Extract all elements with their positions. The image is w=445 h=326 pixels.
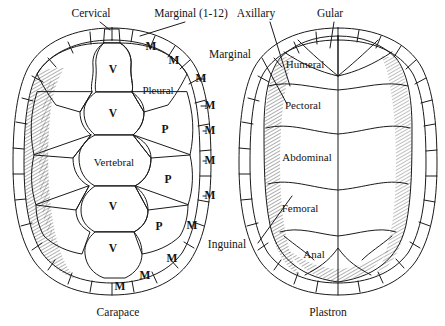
carapace-marginal-m6: M [205, 155, 216, 167]
carapace-scute-vertebral-4: V [109, 201, 117, 213]
plastron-callout-axillary: Axillary [237, 8, 275, 20]
carapace-marginal-m7: M [205, 190, 216, 202]
plastron-scute-femoral: Femoral [282, 203, 319, 214]
plastron-right-bridge-shading [376, 56, 412, 276]
plastron-scute-abdominal: Abdominal [282, 152, 332, 163]
carapace-marginal-m11: M [115, 281, 126, 293]
carapace-scute-pleural-4: P [155, 221, 162, 233]
turtle-shell-figure: Cervical Marginal (1-12) V V Vertebral V… [0, 0, 445, 326]
carapace-scute-pleural-3: P [164, 174, 171, 186]
plastron-drawing [239, 22, 437, 295]
gular-right-seam [338, 40, 378, 76]
carapace-marginal-m5: M [205, 125, 216, 137]
carapace-scute-vertebral-1: V [109, 64, 117, 76]
carapace-scute-pleural-1: Pleural [142, 85, 173, 96]
carapace-callout-cervical: Cervical [72, 8, 111, 20]
gular-leader [330, 22, 334, 48]
carapace-callout-marginal-range: Marginal (1-12) [154, 8, 228, 20]
carapace-marginal-m9: M [167, 253, 178, 265]
plastron-left-bridge-shading [264, 56, 300, 276]
carapace-marginal-m2: M [169, 55, 180, 67]
plastron-callout-marginal: Marginal [209, 49, 251, 61]
carapace-marginal-m10: M [140, 270, 151, 282]
carapace-marginal-m1: M [146, 41, 157, 53]
plastron-scute-anal: Anal [303, 249, 324, 260]
vertebral-scute-5 [85, 232, 142, 278]
plastron-scute-pectoral: Pectoral [285, 100, 321, 111]
plastron-callout-inguinal: Inguinal [208, 239, 246, 251]
marginal-range-leader [140, 22, 185, 36]
caption-carapace: Carapace [97, 307, 140, 319]
carapace-marginal-m4: M [205, 100, 216, 112]
carapace-marginal-m3: M [196, 73, 207, 85]
carapace-scute-vertebral-2: V [109, 108, 117, 120]
carapace-scute-vertebral-3: Vertebral [94, 157, 134, 168]
carapace-marginal-m8: M [187, 220, 198, 232]
marginal-label-leaders [197, 79, 206, 196]
carapace-scute-pleural-2: P [161, 124, 168, 136]
plastron-callout-gular: Gular [317, 8, 343, 20]
caption-plastron: Plastron [309, 307, 347, 319]
carapace-scute-vertebral-5: V [109, 243, 117, 255]
plastron-scute-humeral: Humeral [286, 59, 324, 70]
